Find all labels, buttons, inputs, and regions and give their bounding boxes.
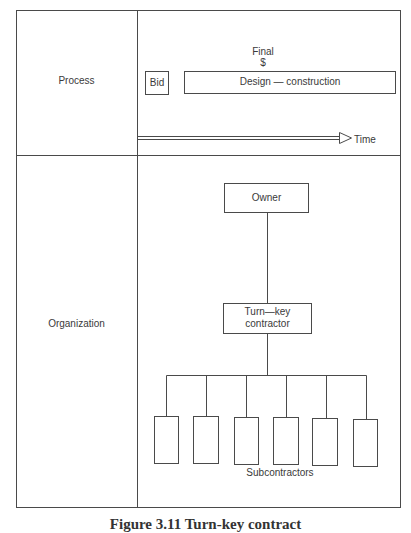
time-arrow-head <box>340 133 352 144</box>
subcontractors-label: Subcontractors <box>230 467 330 478</box>
owner-label: Owner <box>224 192 309 203</box>
subcontractor-box-4 <box>274 418 299 465</box>
contractor-label-line2: contractor <box>223 318 312 329</box>
final-label: Final <box>248 46 278 57</box>
bid-label: Bid <box>145 77 169 88</box>
time-label: Time <box>354 134 376 145</box>
row-label-process: Process <box>16 75 137 86</box>
contractor-label-line1: Turn—key <box>223 306 312 317</box>
subcontractor-box-5 <box>313 419 338 466</box>
figure-caption: Figure 3.11 Turn-key contract <box>0 516 411 533</box>
subcontractor-box-3 <box>235 418 259 465</box>
subcontractor-box-2 <box>194 417 219 464</box>
row-label-organization: Organization <box>16 318 137 329</box>
subcontractor-box-6 <box>354 420 378 467</box>
subcontractor-box-1 <box>155 417 179 464</box>
design-construction-label: Design — construction <box>184 76 396 87</box>
dollar-label: $ <box>248 57 278 68</box>
